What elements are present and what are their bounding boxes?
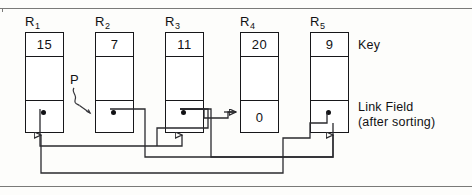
- wire-r2-to-r5: [110, 109, 333, 157]
- linked-list-figure: R1 15 R2 7 R3 11 R4 20 0 R5 9: [0, 0, 472, 195]
- wire-r5-to-r1: [41, 112, 327, 173]
- link-wires: [0, 0, 472, 195]
